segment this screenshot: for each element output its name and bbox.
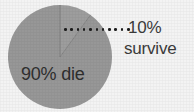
leader-dot [114, 28, 117, 31]
leader-dot [89, 28, 92, 31]
slice-label-survive-percent: 10% [128, 18, 161, 37]
leader-dot [121, 28, 124, 31]
leader-dot [64, 28, 67, 31]
pie-slices [8, 5, 112, 109]
leader-dot [70, 28, 73, 31]
leader-dot [77, 28, 80, 31]
pie-chart-figure: 10% survive 90% die [0, 0, 194, 112]
leader-dot [83, 28, 86, 31]
leader-dot [102, 28, 105, 31]
slice-label-survive-word: survive [124, 39, 176, 58]
leader-line-dots [64, 28, 130, 34]
leader-dot [108, 28, 111, 31]
leader-dot [96, 28, 99, 31]
slice-label-die: 90% die [21, 64, 85, 85]
